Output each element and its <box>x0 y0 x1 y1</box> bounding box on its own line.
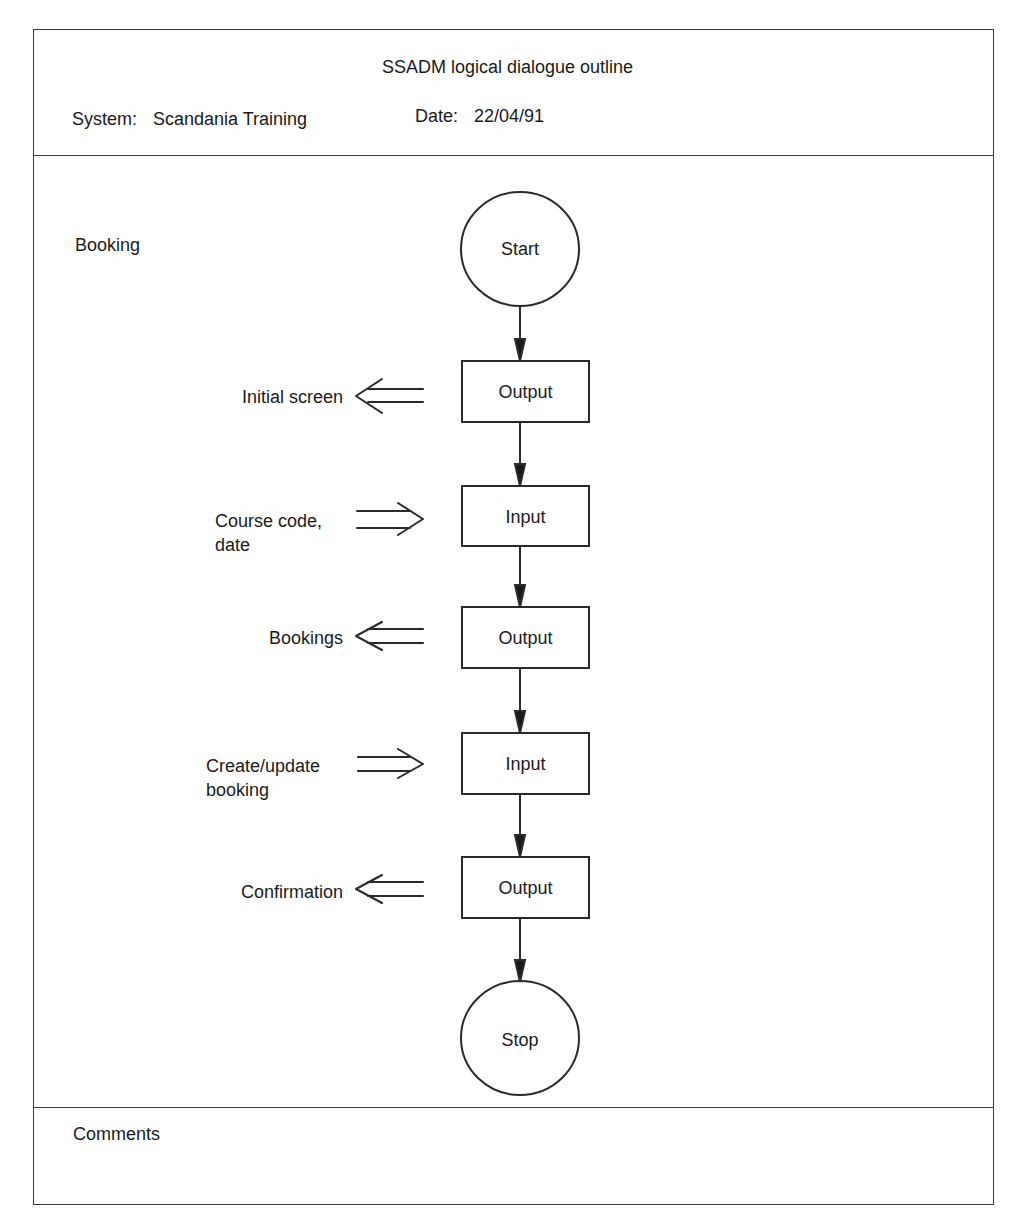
comments-field <box>73 1150 973 1190</box>
step-type-label: Output <box>462 381 589 403</box>
data-flow-label: Initial screen <box>242 386 343 408</box>
stop-node-label: Stop <box>461 1029 579 1051</box>
step-type-label: Input <box>462 753 589 775</box>
double-arrow-left-icon <box>356 875 423 903</box>
data-flow-label: Bookings <box>269 627 343 649</box>
step-type-label: Output <box>462 877 589 899</box>
data-flow-label: Create/update booking <box>206 754 320 802</box>
step-type-label: Output <box>462 627 589 649</box>
start-node-label: Start <box>461 238 579 260</box>
step-type-label: Input <box>462 506 589 528</box>
double-arrow-right-icon <box>358 749 423 778</box>
data-flow-label: Confirmation <box>241 881 343 903</box>
double-arrow-left-icon <box>356 379 423 413</box>
double-arrow-right-icon <box>357 503 423 535</box>
double-arrow-left-icon <box>356 622 423 650</box>
comments-label: Comments <box>73 1123 160 1145</box>
data-flow-label: Course code, date <box>215 509 322 557</box>
